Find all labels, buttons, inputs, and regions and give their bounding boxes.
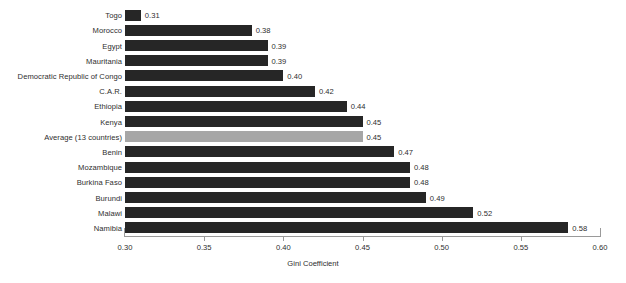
gini-coefficient-bar-chart: Togo0.31Morocco0.38Egypt0.39Mauritania0.… (0, 0, 626, 283)
x-tick-label: 0.55 (513, 243, 528, 252)
x-tick-label: 0.30 (118, 243, 133, 252)
x-tick-label: 0.40 (276, 243, 291, 252)
x-axis-ticks: 0.300.350.400.450.500.550.60 (0, 0, 626, 283)
tick-mark (442, 237, 443, 241)
tick-mark (204, 237, 205, 241)
x-axis-title: Gini Coefficient (0, 259, 626, 268)
tick-mark (521, 237, 522, 241)
x-tick-label: 0.60 (593, 243, 608, 252)
tick-mark (283, 237, 284, 241)
x-tick-label: 0.35 (197, 243, 212, 252)
x-tick-label: 0.50 (434, 243, 449, 252)
x-tick-label: 0.45 (355, 243, 370, 252)
tick-mark (363, 237, 364, 241)
